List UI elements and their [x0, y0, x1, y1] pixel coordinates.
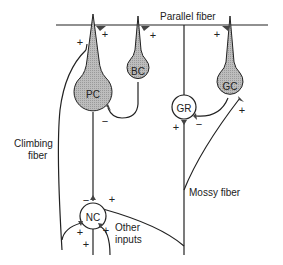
- cerebellar-circuit-diagram: Parallel fiber PC + BC + − GR GC + − + +: [0, 0, 283, 265]
- sign-mf-nc: +: [83, 238, 89, 250]
- gr-label: GR: [177, 103, 192, 114]
- climbing-fiber-label-1: Climbing: [14, 138, 53, 149]
- other-inputs-label-1: Other: [115, 222, 141, 233]
- sign-mf-gr: +: [173, 121, 179, 133]
- parallel-fiber-label: Parallel fiber: [160, 11, 216, 22]
- golgi-cell: GC: [217, 16, 243, 94]
- sign-pf-gc: +: [214, 28, 220, 40]
- synapse-mf-gr: [181, 120, 187, 125]
- sign-mf-gc: +: [239, 104, 245, 116]
- other-inputs-label-2: inputs: [115, 234, 142, 245]
- granule-cell: GR: [172, 25, 196, 119]
- gc-label: GC: [223, 81, 238, 92]
- sign-pf-pc: +: [102, 28, 108, 40]
- sign-cf-nc: +: [77, 226, 83, 238]
- bc-to-pc-axon: [108, 82, 138, 118]
- climbing-fiber-label-2: fiber: [28, 150, 48, 161]
- sign-cf-pc: +: [77, 36, 83, 48]
- sign-pf-bc: +: [150, 29, 156, 41]
- synapse-pf-bc: [141, 26, 150, 31]
- nc-label: NC: [86, 212, 100, 223]
- synapse-mf-gc: [238, 96, 244, 102]
- sign-gc-gr: −: [196, 118, 202, 130]
- sign-other-nc: +: [103, 224, 109, 236]
- synapse-pc-nc: [90, 195, 96, 200]
- climbing-fiber-terminal: [86, 44, 87, 50]
- gc-to-gr-axon: [196, 98, 228, 116]
- bc-label: BC: [131, 66, 145, 77]
- sign-bc-pc: −: [102, 115, 108, 127]
- pc-label: PC: [86, 89, 100, 100]
- mossy-fiber-label: Mossy fiber: [189, 187, 241, 198]
- sign-mossy-nc: +: [109, 193, 115, 205]
